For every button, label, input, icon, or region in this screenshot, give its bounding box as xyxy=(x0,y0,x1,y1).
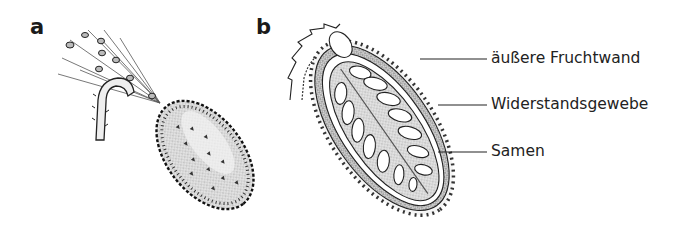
label-outer-fruit-wall: äußere Fruchtwand xyxy=(491,51,640,67)
seed-jet xyxy=(58,30,160,103)
panel-letter-a: a xyxy=(30,17,44,38)
fruit-body xyxy=(137,83,273,227)
panel-a-illustration xyxy=(58,30,273,227)
stalk xyxy=(96,78,134,140)
panel-b-illustration xyxy=(279,11,487,227)
illustration-canvas xyxy=(0,0,688,227)
label-seeds: Samen xyxy=(491,144,545,160)
panel-letter-b: b xyxy=(256,17,271,38)
label-resistance-tissue: Widerstandsgewebe xyxy=(491,97,648,113)
